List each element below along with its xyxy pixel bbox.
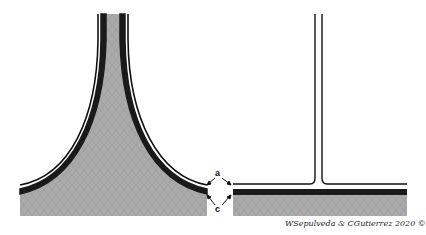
right-black-band (233, 189, 407, 195)
right-outline-left (233, 14, 315, 184)
label-a: a (215, 168, 220, 178)
right-junction-diagram (233, 14, 407, 216)
label-arrows (207, 178, 231, 205)
label-c: c (215, 204, 220, 214)
left-junction-diagram (20, 14, 207, 216)
right-outline-right (322, 14, 407, 184)
credit-text: WSepulveda & CGutierrez 2020 © (285, 219, 426, 228)
right-gray-fill (233, 195, 407, 216)
left-gray-fill (20, 14, 207, 216)
